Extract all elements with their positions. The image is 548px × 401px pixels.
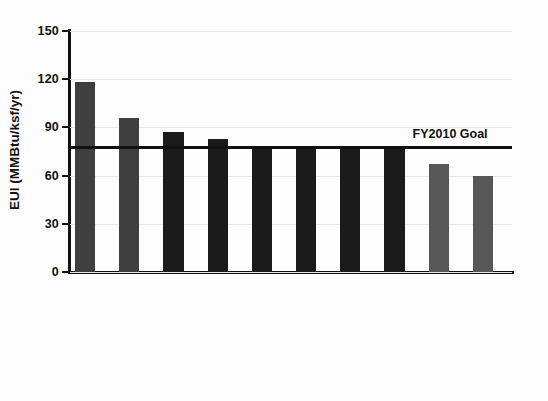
y-tick-label-30: 30 bbox=[45, 217, 59, 231]
y-tick-90 bbox=[62, 126, 70, 128]
y-tick-120 bbox=[62, 78, 70, 80]
bar bbox=[252, 147, 272, 272]
y-tick-60 bbox=[62, 175, 70, 177]
y-tick-label-120: 120 bbox=[38, 72, 59, 86]
bar bbox=[384, 147, 404, 272]
y-tick-label-90: 90 bbox=[45, 120, 59, 134]
y-tick-label-150: 150 bbox=[38, 24, 59, 38]
y-tick-30 bbox=[62, 223, 70, 225]
goal-line-label: FY2010 Goal bbox=[413, 127, 488, 141]
bar bbox=[296, 147, 316, 272]
y-axis-title-text: EUI (MMBtu/ksf/yr) bbox=[7, 90, 22, 210]
bar bbox=[340, 147, 360, 272]
goal-line bbox=[70, 146, 512, 149]
bar bbox=[473, 176, 493, 272]
gridline-0 bbox=[70, 272, 512, 273]
y-tick-0 bbox=[62, 271, 70, 273]
plot-area: 0306090120150 FY2010 Goal bbox=[70, 31, 512, 272]
x-axis-category-labels: FY1985 ActualFY2000 ActualNew Privatized… bbox=[0, 274, 548, 401]
y-tick-150 bbox=[62, 30, 70, 32]
bar-series bbox=[70, 31, 512, 272]
bar bbox=[75, 82, 95, 272]
bar bbox=[119, 118, 139, 272]
y-axis-title: EUI (MMBtu/ksf/yr) bbox=[0, 40, 28, 260]
y-tick-label-60: 60 bbox=[45, 169, 59, 183]
bar bbox=[429, 164, 449, 272]
bar bbox=[208, 139, 228, 272]
chart-figure: EUI (MMBtu/ksf/yr) 0306090120150 FY2010 … bbox=[0, 0, 548, 401]
bar bbox=[163, 132, 183, 272]
